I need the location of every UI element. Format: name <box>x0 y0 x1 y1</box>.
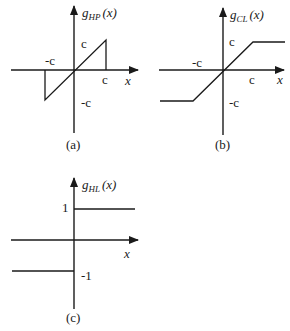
caption-b: (b) <box>215 137 230 152</box>
caption-c: (c) <box>66 310 80 325</box>
panel-c: gHL(x) 1 x -1 (c) <box>11 177 138 325</box>
label-neg-y-b: -c <box>229 95 239 110</box>
label-neg-x-a: -c <box>45 53 55 68</box>
label-pos-y-b: c <box>229 34 235 49</box>
label-neg-y-c: -1 <box>81 268 92 283</box>
label-neg-x-b: -c <box>192 55 202 70</box>
x-label-b: x <box>276 72 283 87</box>
label-pos-x-a: c <box>102 72 108 87</box>
label-neg-y-a: -c <box>81 95 91 110</box>
x-label-c: x <box>123 246 130 261</box>
label-pos-y-c: 1 <box>62 200 69 215</box>
label-pos-x-b: c <box>249 72 255 87</box>
figure: gHP(x) c -c c x -c (a) gCL(x) c -c c x -… <box>0 0 290 331</box>
func-label-b: gCL(x) <box>230 7 264 24</box>
panel-b: gCL(x) c -c c x -c (b) <box>159 7 285 152</box>
x-label-a: x <box>124 73 131 88</box>
panel-a: gHP(x) c -c c x -c (a) <box>11 5 138 152</box>
label-pos-y-a: c <box>81 36 87 51</box>
caption-a: (a) <box>66 137 80 152</box>
func-label-a: gHP(x) <box>82 5 117 22</box>
func-label-c: gHL(x) <box>82 177 116 194</box>
